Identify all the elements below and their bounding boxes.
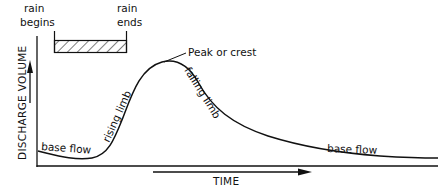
x-axis-label: TIME xyxy=(212,175,239,187)
rain-ends-label: rain ends xyxy=(117,2,142,28)
rain-begins-line1: rain xyxy=(24,2,44,14)
rain-ends-line1: rain xyxy=(117,2,137,14)
rain-begins-label: rain begins xyxy=(20,2,55,28)
rising-limb-label: rising limb xyxy=(100,88,133,143)
peak-leader-line xyxy=(164,53,186,62)
base-flow-right-label: base flow xyxy=(327,142,378,156)
hydrograph-curve xyxy=(38,61,438,159)
peak-label: Peak or crest xyxy=(188,46,256,58)
y-axis-label: DISCHARGE VOLUME xyxy=(16,46,28,160)
rain-begins-line2: begins xyxy=(20,16,55,28)
rain-ends-line2: ends xyxy=(117,16,142,28)
rainfall-period-bar xyxy=(55,31,127,53)
hydrograph-diagram: rain begins rain ends DISCHARGE VOLUME T… xyxy=(0,0,444,193)
falling-limb-label: falling limb xyxy=(182,65,223,121)
